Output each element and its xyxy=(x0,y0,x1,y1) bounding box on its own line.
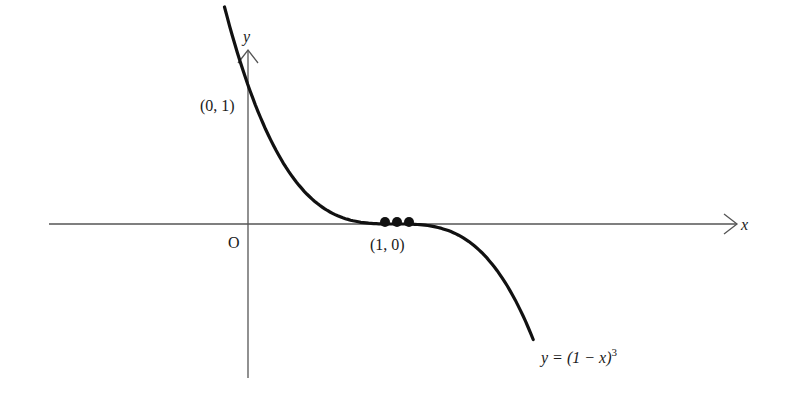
root-dot xyxy=(380,217,390,227)
root-dot xyxy=(404,217,414,227)
point-label-1-0: (1, 0) xyxy=(370,236,405,254)
x-axis-label: x xyxy=(740,216,748,233)
root-dot xyxy=(392,217,402,227)
point-label-0-1: (0, 1) xyxy=(200,97,235,115)
cubic-curve xyxy=(225,7,534,340)
cubic-graph: y x O (0, 1) (1, 0) y = (1 − x)3 xyxy=(0,0,795,402)
y-axis-label: y xyxy=(241,28,251,46)
equation-exponent: 3 xyxy=(611,346,617,358)
equation-main: y = (1 − x) xyxy=(539,349,611,367)
equation-label: y = (1 − x)3 xyxy=(539,346,617,367)
origin-label: O xyxy=(228,234,240,251)
